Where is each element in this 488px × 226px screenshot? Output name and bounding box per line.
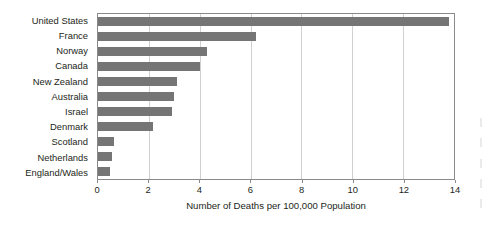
category-label: New Zealand (33, 77, 88, 86)
category-label: Australia (52, 92, 88, 101)
category-label: England/Wales (25, 168, 88, 177)
x-axis-title: Number of Deaths per 100,000 Population (97, 201, 455, 211)
x-tick-mark (148, 180, 149, 183)
bar-row[interactable] (98, 149, 454, 164)
bar-row[interactable] (98, 29, 454, 44)
bar[interactable] (98, 77, 177, 86)
bar-row[interactable] (98, 134, 454, 149)
category-label-row: Scotland (0, 135, 93, 150)
x-tick-mark (353, 180, 354, 183)
category-label-row: New Zealand (0, 74, 93, 89)
category-label: Israel (65, 107, 88, 116)
edge-mark (480, 179, 482, 188)
bar-row[interactable] (98, 74, 454, 89)
bar-row[interactable] (98, 44, 454, 59)
x-tick-label: 4 (197, 185, 202, 194)
bar-row[interactable] (98, 104, 454, 119)
x-tick-mark (302, 180, 303, 183)
bar[interactable] (98, 47, 207, 56)
category-label-row: Norway (0, 43, 93, 58)
bar[interactable] (98, 167, 110, 176)
x-tick-label: 6 (248, 185, 253, 194)
edge-mark (480, 118, 482, 127)
bar-chart-figure: United StatesFranceNorwayCanadaNew Zeala… (0, 0, 488, 226)
value-axis: 02468101214 (97, 180, 455, 200)
x-tick-label: 14 (450, 185, 460, 194)
bar[interactable] (98, 62, 200, 71)
category-label: Scotland (52, 137, 88, 146)
x-tick-mark (250, 180, 251, 183)
bar[interactable] (98, 107, 172, 116)
category-label-row: England/Wales (0, 165, 93, 180)
bar-row[interactable] (98, 14, 454, 29)
bar-row[interactable] (98, 119, 454, 134)
x-tick-mark (199, 180, 200, 183)
x-tick-label: 8 (299, 185, 304, 194)
x-tick-label: 10 (347, 185, 357, 194)
page-edge-artifact (476, 118, 486, 208)
category-label-row: Denmark (0, 119, 93, 134)
edge-mark (480, 138, 482, 147)
category-axis-labels: United StatesFranceNorwayCanadaNew Zeala… (0, 13, 93, 180)
category-label-row: Israel (0, 104, 93, 119)
x-tick-label: 2 (146, 185, 151, 194)
x-tick-label: 12 (399, 185, 409, 194)
plot-area (97, 13, 455, 180)
edge-mark (480, 199, 482, 208)
category-label: Canada (55, 61, 88, 70)
category-label-row: Canada (0, 59, 93, 74)
category-label: Denmark (50, 122, 88, 131)
bar[interactable] (98, 17, 449, 26)
bar[interactable] (98, 137, 114, 146)
bar[interactable] (98, 122, 153, 131)
bar-row[interactable] (98, 89, 454, 104)
bar[interactable] (98, 152, 112, 161)
x-tick-mark (97, 180, 98, 183)
x-tick-mark (404, 180, 405, 183)
category-label-row: Netherlands (0, 150, 93, 165)
bar-row[interactable] (98, 59, 454, 74)
category-label-row: Australia (0, 89, 93, 104)
bar[interactable] (98, 92, 174, 101)
x-tick-label: 0 (94, 185, 99, 194)
category-label-row: United States (0, 13, 93, 28)
category-label: United States (32, 16, 88, 25)
x-tick-mark (455, 180, 456, 183)
bar[interactable] (98, 32, 256, 41)
bar-row[interactable] (98, 164, 454, 179)
category-label: Norway (56, 46, 88, 55)
edge-mark (480, 159, 482, 168)
bar-series (98, 14, 454, 179)
category-label: France (59, 31, 88, 40)
category-label: Netherlands (37, 153, 88, 162)
category-label-row: France (0, 28, 93, 43)
